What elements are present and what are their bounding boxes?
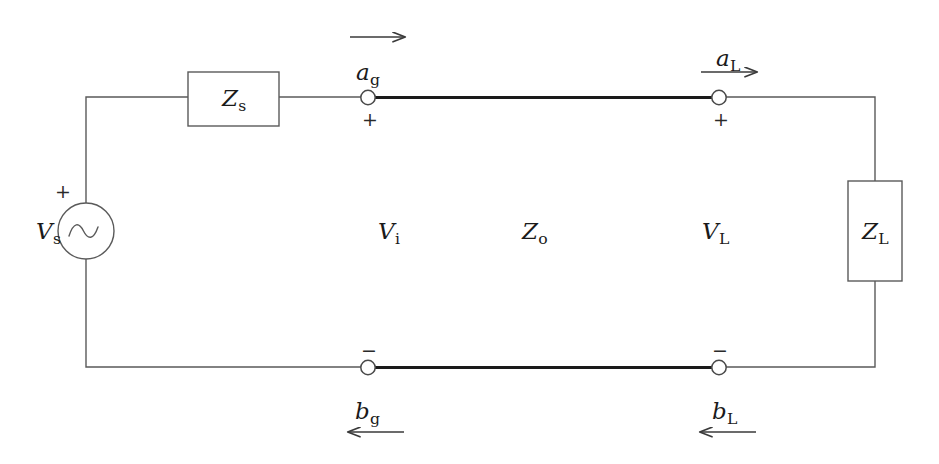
wire-node-al-to-zl <box>726 97 875 181</box>
node-bg-terminal <box>361 360 375 374</box>
vi-label: Vi <box>378 220 400 243</box>
bg-label: bg <box>355 400 380 423</box>
zs-label: Zs <box>222 87 246 110</box>
al-label: aL <box>716 47 740 70</box>
node-bl-terminal <box>712 360 726 374</box>
zo-label: Zo <box>522 220 547 243</box>
circuit-schematic <box>0 0 939 464</box>
node-bg-minus-sign: − <box>361 341 377 360</box>
zl-label: ZL <box>862 220 888 243</box>
source-voltage-label: Vs <box>36 220 61 243</box>
wire-source-to-zs <box>86 97 188 203</box>
node-al-plus-sign: + <box>713 110 729 129</box>
ac-source-circle <box>58 203 114 259</box>
node-al-terminal <box>712 90 726 104</box>
ag-label: ag <box>356 61 380 84</box>
node-ag-terminal <box>361 90 375 104</box>
vl-label: VL <box>702 220 729 243</box>
source-plus-sign: + <box>55 182 71 201</box>
node-ag-plus-sign: + <box>362 110 378 129</box>
bl-label: bL <box>712 400 737 423</box>
wire-node-bg-to-source <box>86 259 361 367</box>
wire-zl-to-node-bl <box>726 281 875 367</box>
circuit-diagram-canvas: Vs + Zs ZL Zo Vi VL ag + aL + bg − bL − <box>0 0 939 464</box>
node-bl-minus-sign: − <box>712 341 728 360</box>
